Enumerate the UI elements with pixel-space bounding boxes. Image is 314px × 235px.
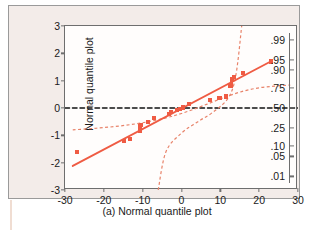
probability-tick-mark [289, 88, 294, 89]
probability-tick-mark [289, 156, 294, 157]
probability-tick-mark [289, 145, 294, 146]
data-point-cluster [230, 77, 234, 88]
data-point [152, 116, 156, 120]
probability-tick-mark [289, 107, 294, 108]
probability-tick-mark [289, 70, 294, 71]
probability-scale: .99.95.90.75.50.25.10.05.01 [245, 33, 295, 183]
y-tick-label: -2 [51, 157, 60, 169]
probability-tick-mark [289, 176, 294, 177]
probability-tick-label: .25 [270, 122, 285, 134]
data-point [208, 98, 212, 102]
probability-tick-label: .50 [270, 102, 285, 114]
data-point [169, 110, 173, 114]
data-point-cluster [138, 124, 142, 133]
y-tick-label: 2 [54, 47, 60, 59]
data-point [187, 102, 191, 106]
data-point [217, 96, 221, 100]
probability-tick-label: .99 [270, 34, 285, 46]
figure-panel: Normal quantile plot 3210-1-2-3 -30-20-1… [8, 5, 300, 199]
data-point [181, 105, 185, 109]
data-point [224, 94, 228, 98]
y-tick-label: 0 [54, 102, 60, 114]
y-tick-label: 1 [54, 75, 60, 87]
probability-tick-label: .90 [270, 64, 285, 76]
probability-tick-label: .75 [270, 82, 285, 94]
normal-quantile-plot-figure: Normal quantile plot 3210-1-2-3 -30-20-1… [0, 0, 314, 235]
y-tick-label: -1 [51, 129, 60, 141]
probability-tick-label: .01 [270, 170, 285, 182]
data-point [75, 150, 79, 154]
probability-tick-mark [289, 59, 294, 60]
probability-tick-mark [289, 39, 294, 40]
y-tick-label: 3 [54, 20, 60, 32]
probability-tick-label: .05 [270, 150, 285, 162]
data-point [146, 120, 150, 124]
probability-tick-mark [289, 127, 294, 128]
figure-caption: (a) Normal quantile plot [0, 205, 314, 217]
data-point [128, 137, 132, 141]
data-point [122, 139, 126, 143]
